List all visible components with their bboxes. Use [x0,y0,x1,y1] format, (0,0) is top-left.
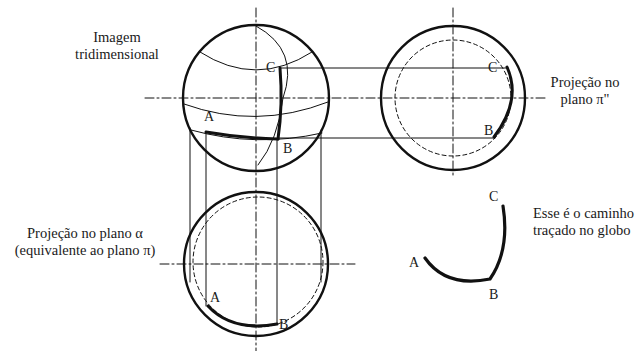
label-projection-alpha: Projeção no plano α (equivalente ao plan… [0,225,170,259]
path-point-A: A [409,256,419,270]
label-alpha-line2: (equivalente ao plano π) [0,242,170,259]
caption-line1: Esse é o caminho [533,205,640,222]
sphere-point-B: B [283,142,292,156]
label-3d-image: Imagem tridimensional [62,29,172,63]
path-point-C: C [489,190,498,204]
sphere-point-A: A [204,110,214,124]
label-3d-line1: Imagem [62,29,172,46]
path-point-B: B [489,288,498,302]
right-point-B: B [484,124,493,138]
right-point-C: C [488,61,497,75]
label-pi2-line1: Projeção no [530,74,640,91]
bottom-point-A: A [210,291,220,305]
label-alpha-line1: Projeção no plano α [0,225,170,242]
label-3d-line2: tridimensional [62,46,172,63]
bottom-projection-dashed [193,197,323,327]
sphere-path-BC [278,68,281,139]
bottom-projection-path-AB [208,306,277,326]
label-projection-pi2: Projeção no plano π" [530,74,640,108]
caption-line2: traçado no globo [533,222,640,239]
label-pi2-line2: plano π" [530,91,640,108]
sphere-point-C: C [266,61,275,75]
bottom-point-B: B [279,318,288,332]
traced-path [425,206,505,281]
label-path-caption: Esse é o caminho traçado no globo [533,205,640,239]
